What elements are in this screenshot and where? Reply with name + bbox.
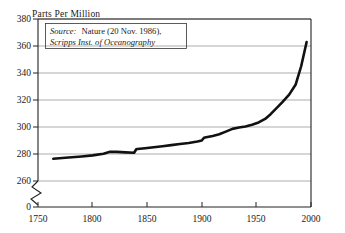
x-tick-labels: 1750 1800 1850 1900 1950 2000 <box>29 214 321 224</box>
y-tick-label-340: 340 <box>17 68 32 78</box>
y-tick-marks <box>33 19 38 207</box>
y-axis-break-zigzag <box>31 181 41 205</box>
source-annotation-line1: Source: Nature (20 Nov. 1986), <box>50 26 161 36</box>
co2-line-chart: Parts Per Million <box>0 0 345 233</box>
y-tick-label-zero: 0 <box>26 202 31 212</box>
y-tick-label-320: 320 <box>17 95 32 105</box>
x-tick-label-1750: 1750 <box>29 214 48 224</box>
source-annotation-line2: Scripps Inst. of Oceanography <box>50 37 155 47</box>
chart-canvas: Parts Per Million <box>0 0 345 233</box>
x-tick-label-2000: 2000 <box>302 214 321 224</box>
y-tick-label-380: 380 <box>17 14 32 24</box>
x-tick-marks <box>38 202 311 207</box>
x-tick-label-1800: 1800 <box>83 214 102 224</box>
y-tick-label-280: 280 <box>17 149 32 159</box>
x-tick-label-1900: 1900 <box>193 214 212 224</box>
y-tick-labels: 380 360 340 320 300 280 260 0 <box>17 14 32 212</box>
x-tick-label-1950: 1950 <box>247 214 266 224</box>
y-axis-title: Parts Per Million <box>32 9 100 19</box>
x-tick-label-1850: 1850 <box>138 214 157 224</box>
y-tick-label-300: 300 <box>17 122 32 132</box>
source-line1-rest: Nature (20 Nov. 1986), <box>82 26 162 36</box>
y-tick-label-260: 260 <box>17 176 32 186</box>
source-label: Source: <box>50 26 77 36</box>
y-tick-label-360: 360 <box>17 41 32 51</box>
